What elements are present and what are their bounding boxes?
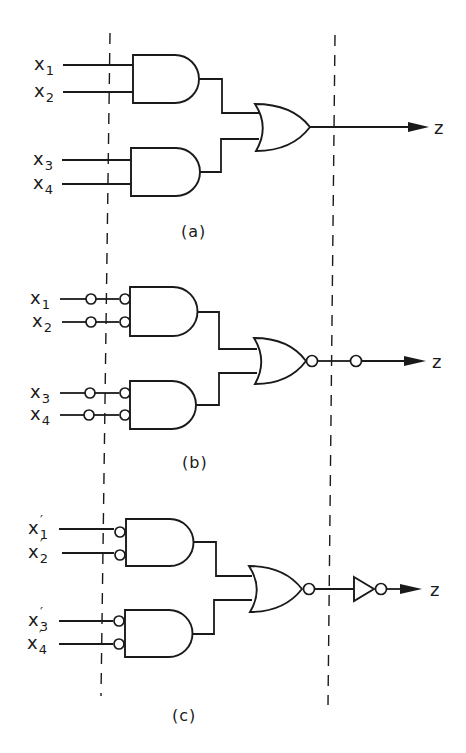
input-label-x3: x3 [33,148,53,173]
inversion-bubble [351,356,362,367]
inversion-bubble [84,410,94,420]
input-label-x1: x1 [34,53,54,78]
inversion-bubble [307,356,318,367]
wire-and1-to-nor [193,542,252,576]
logic-diagram: x1 x2 x3 x4 z (a) x1 x2 x3 x4 [0,0,466,753]
inversion-bubble [120,410,130,420]
panel-c: x1′ x2′ x3′ x4′ z (c) [27,512,439,725]
output-label-z: z [432,351,441,372]
inverter-gate [354,577,374,601]
caption-b: (b) [182,453,208,472]
and-gate-1 [130,287,197,336]
caption-a: (a) [181,222,206,241]
inversion-bubble [114,616,124,626]
inversion-bubble [376,584,387,595]
output-arrow-icon [400,584,422,594]
nor-gate [254,338,306,384]
panel-b: x1 x2 x3 x4 z (b) [30,287,441,472]
right-boundary-dashed-line [328,35,335,705]
nor-gate [249,566,302,612]
and-gate-1 [133,55,199,103]
inversion-bubble [115,527,125,537]
output-label-z: z [434,117,443,138]
output-label-z: z [430,579,439,600]
wire-and2-to-or [200,139,259,172]
input-label-x1: x1 [30,287,50,312]
inversion-bubble [120,317,130,327]
and-gate-1 [126,519,193,566]
input-label-x4: x4 [33,172,53,197]
wire-and2-to-nor [196,373,257,405]
inversion-bubble [115,550,125,560]
wire-and1-to-nor [197,312,257,349]
inversion-bubble [120,294,130,304]
input-label-x4: x4 [30,403,50,428]
inversion-bubble [120,388,130,398]
caption-c: (c) [172,706,196,725]
inversion-bubble [304,584,315,595]
input-label-x2: x2 [32,310,52,335]
left-boundary-dashed-line [101,33,110,696]
output-arrow-icon [408,122,429,132]
inversion-bubble [114,639,124,649]
wire-and2-to-nor [192,600,252,634]
input-label-x2: x2 [34,80,54,105]
input-label-x1-prime: x1′ [28,512,48,542]
inversion-bubble [85,388,95,398]
output-arrow-icon [404,356,426,366]
panel-a: x1 x2 x3 x4 z (a) [33,53,443,241]
wire-and1-to-or [199,79,259,113]
and-gate-2 [131,148,200,196]
or-gate [255,104,310,151]
inversion-bubble [86,317,96,327]
and-gate-2 [125,610,193,657]
and-gate-2 [130,381,196,429]
inversion-bubble [86,294,96,304]
